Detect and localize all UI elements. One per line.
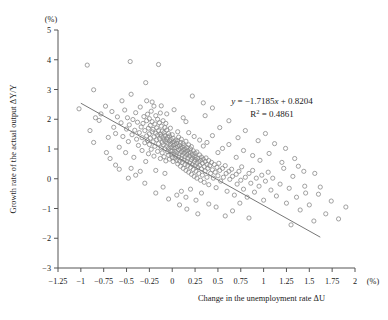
data-point (271, 176, 275, 180)
data-point (129, 166, 133, 170)
data-point (243, 175, 247, 179)
data-point (247, 216, 251, 220)
data-point (194, 198, 198, 202)
data-point (202, 180, 206, 184)
data-point (251, 168, 255, 172)
data-point (126, 139, 130, 143)
data-point (303, 184, 307, 188)
data-point (241, 148, 245, 152)
data-point (175, 193, 179, 197)
data-point (207, 202, 211, 206)
data-point (108, 156, 112, 160)
data-point (156, 149, 160, 153)
data-point (293, 156, 297, 160)
data-point (152, 154, 156, 158)
data-point (134, 111, 138, 115)
data-point (243, 128, 247, 132)
x-axis-title: Change in the unemployment rate ΔU (198, 294, 325, 303)
x-axis-unit-label: (%) (367, 277, 380, 286)
data-point (257, 184, 261, 188)
data-point (251, 153, 255, 157)
data-point (156, 62, 160, 66)
data-point (336, 217, 340, 221)
data-point (184, 120, 188, 124)
y-axis-unit-label: (%) (45, 15, 58, 24)
x-tick-label: −0.25 (140, 277, 159, 286)
data-point (131, 117, 135, 121)
data-point (269, 188, 273, 192)
data-point (192, 134, 196, 138)
data-point (190, 94, 194, 98)
data-point (223, 164, 227, 168)
x-tick-label: −1 (76, 277, 85, 286)
data-point (130, 133, 134, 137)
data-point (128, 59, 132, 63)
data-point (249, 181, 253, 185)
data-point (177, 203, 181, 207)
data-point (205, 140, 209, 144)
r-squared-label: R2 = 0.4861 (250, 108, 294, 119)
data-point (247, 171, 251, 175)
data-point (135, 120, 139, 124)
data-point (145, 112, 149, 116)
x-tick-label: 1.5 (304, 277, 314, 286)
data-point (284, 201, 288, 205)
data-point (227, 142, 231, 146)
data-point (241, 187, 245, 191)
data-point (272, 142, 276, 146)
data-point (113, 131, 117, 135)
data-point (240, 165, 244, 169)
data-point (129, 92, 133, 96)
data-point (235, 182, 239, 186)
data-point (267, 151, 271, 155)
data-point (88, 128, 92, 132)
data-point (188, 187, 192, 191)
data-point (214, 186, 218, 190)
data-point (201, 144, 205, 148)
data-point (143, 181, 147, 185)
data-point (198, 138, 202, 142)
data-point (324, 212, 328, 216)
y-tick-label: −2 (42, 234, 51, 243)
data-point (302, 169, 306, 173)
data-point (92, 140, 96, 144)
x-tick-label: 1 (262, 277, 266, 286)
data-point (205, 175, 209, 179)
data-point (236, 136, 240, 140)
data-point (220, 146, 224, 150)
data-point (282, 166, 286, 170)
data-point (117, 167, 121, 171)
data-point (138, 105, 142, 109)
data-point (256, 139, 260, 143)
data-point (147, 142, 151, 146)
x-tick-label: 0.25 (188, 277, 202, 286)
data-point (289, 223, 293, 227)
y-tick-label: 5 (47, 26, 51, 35)
data-point (329, 199, 333, 203)
data-point (176, 130, 180, 134)
data-point (184, 195, 188, 199)
data-point (136, 143, 140, 147)
data-point (172, 108, 176, 112)
data-point (210, 134, 214, 138)
x-tick-label: 2 (353, 277, 357, 286)
data-point (221, 175, 225, 179)
data-point (223, 214, 227, 218)
y-tick-label: 3 (47, 86, 51, 95)
data-point (217, 161, 221, 165)
data-point (125, 116, 129, 120)
data-point (318, 185, 322, 189)
y-tick-label: −1 (42, 205, 51, 214)
data-point (266, 170, 270, 174)
data-point (164, 121, 168, 125)
data-point (214, 205, 218, 209)
y-axis-title: Growth rate of the actual output ΔY/Y (9, 84, 18, 213)
data-point (149, 147, 153, 151)
y-tick-label: 1 (47, 145, 51, 154)
data-point (316, 192, 320, 196)
data-point (115, 115, 119, 119)
data-point (165, 112, 169, 116)
data-point (113, 163, 117, 167)
data-point (312, 219, 316, 223)
data-point (126, 176, 130, 180)
